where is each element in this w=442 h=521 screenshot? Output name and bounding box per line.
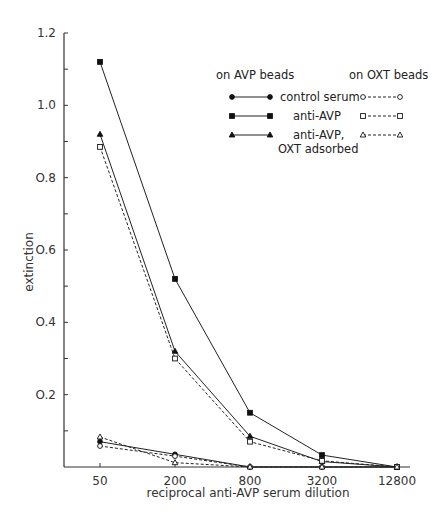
square-marker [320, 458, 325, 463]
legend-header-avp: on AVP beads [216, 68, 294, 82]
legend-label-oxt-adsorbed: OXT adsorbed [278, 142, 358, 156]
circle-marker [361, 95, 366, 100]
triangle-marker [97, 434, 103, 439]
square-marker [248, 439, 253, 444]
square-marker [230, 114, 235, 119]
series-1 [98, 60, 400, 470]
circle-marker [173, 454, 178, 459]
square-marker [173, 277, 178, 282]
square-marker [173, 356, 178, 361]
circle-marker [98, 444, 103, 449]
series-2 [97, 131, 400, 469]
y-tick-label: O.4 [36, 315, 56, 329]
circle-marker [230, 95, 235, 100]
legend-label-anti-avp: anti-AVP [293, 109, 341, 123]
square-marker [248, 410, 253, 415]
legend-label-control: control serum [280, 90, 360, 104]
y-tick-label: O.8 [36, 171, 56, 185]
triangle-marker [97, 131, 103, 136]
y-tick-label: 1.2 [37, 26, 56, 40]
y-tick-label: 1.0 [37, 98, 56, 112]
x-tick-label: 12800 [378, 474, 416, 488]
circle-marker [268, 95, 273, 100]
legend: on AVP beads on OXT beads control serum … [216, 68, 428, 156]
y-tick-label: O.6 [36, 243, 56, 257]
series-line [100, 134, 397, 467]
series-line [100, 147, 397, 467]
series-3 [98, 444, 400, 470]
square-marker [268, 114, 273, 119]
square-marker [98, 60, 103, 65]
chart: O.2O.4O.6O.81.01.250200800320012800 on A… [0, 0, 442, 521]
square-marker [98, 145, 103, 150]
y-tick-label: O.2 [36, 388, 56, 402]
square-marker [398, 114, 403, 119]
x-tick-label: 50 [92, 474, 107, 488]
circle-marker [398, 95, 403, 100]
square-marker [361, 114, 366, 119]
triangle-marker [172, 348, 178, 353]
x-axis-title: reciprocal anti-AVP serum dilution [146, 486, 349, 500]
legend-label-anti-avp-oxt: anti-AVP, [293, 128, 345, 142]
square-marker [320, 453, 325, 458]
series-4 [98, 145, 400, 470]
legend-header-oxt: on OXT beads [349, 68, 428, 82]
y-axis-title: extinction [22, 232, 36, 292]
series-group [97, 60, 400, 470]
